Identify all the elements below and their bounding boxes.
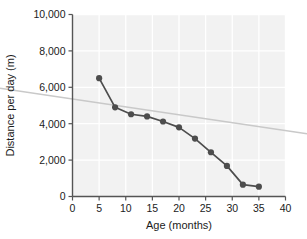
x-tick-label: 30	[226, 202, 238, 214]
data-point	[160, 118, 166, 124]
x-tick-label: 35	[253, 202, 265, 214]
data-point	[192, 136, 198, 142]
data-point	[112, 104, 118, 110]
x-tick-label: 10	[120, 202, 132, 214]
x-tick-label: 25	[200, 202, 212, 214]
data-point	[208, 149, 214, 155]
y-tick-label: 0	[60, 190, 66, 202]
y-tick-label: 10,000	[33, 8, 65, 20]
x-tick-label: 0	[70, 202, 76, 214]
data-point	[128, 111, 134, 117]
data-point	[256, 184, 262, 190]
x-tick-label: 20	[173, 202, 185, 214]
data-point	[224, 163, 230, 169]
x-tick-label: 5	[96, 202, 102, 214]
y-tick-label: 6,000	[39, 81, 65, 93]
y-tick-label: 8,000	[39, 45, 65, 57]
data-point	[144, 113, 150, 119]
x-tick-label: 40	[280, 202, 292, 214]
y-tick-label: 2,000	[39, 154, 65, 166]
y-axis-title: Distance per day (m)	[4, 54, 16, 156]
x-tick-label: 15	[147, 202, 159, 214]
line-chart: 0510152025303540 02,0004,0006,0008,00010…	[0, 0, 307, 239]
y-tick-label: 4,000	[39, 118, 65, 130]
data-point	[96, 75, 102, 81]
x-axis-title: Age (months)	[146, 219, 212, 231]
data-point	[240, 182, 246, 188]
data-point	[176, 124, 182, 130]
chart-container: 0510152025303540 02,0004,0006,0008,00010…	[0, 0, 307, 239]
